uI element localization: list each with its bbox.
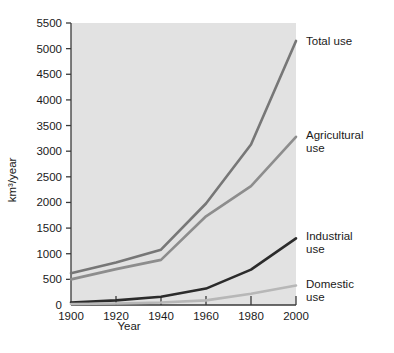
x-tick-label: 1980: [238, 310, 264, 322]
y-tick-label: 1500: [36, 222, 62, 234]
y-tick-label: 1000: [36, 248, 62, 260]
x-axis-title: Year: [117, 320, 140, 332]
chart-canvas: 0500100015002000250030003500400045005000…: [0, 0, 394, 353]
y-axis-title: km³/year: [6, 157, 18, 202]
y-axis-ticks: 0500100015002000250030003500400045005000…: [36, 17, 71, 311]
series-labels-group: Total useAgriculturaluseIndustrialuseDom…: [306, 35, 364, 303]
x-tick-label: 1940: [148, 310, 174, 322]
y-tick-label: 2000: [36, 196, 62, 208]
y-tick-label: 4500: [36, 68, 62, 80]
y-tick-label: 3500: [36, 120, 62, 132]
x-tick-label: 1900: [58, 310, 84, 322]
series-label-domestic-use: Domesticuse: [306, 278, 354, 303]
y-tick-label: 3000: [36, 145, 62, 157]
y-tick-label: 500: [43, 273, 62, 285]
x-tick-label: 1960: [193, 310, 219, 322]
chart-figure: 0500100015002000250030003500400045005000…: [0, 0, 394, 353]
y-tick-label: 4000: [36, 94, 62, 106]
y-tick-label: 2500: [36, 171, 62, 183]
series-label-total-use: Total use: [306, 35, 352, 47]
x-tick-label: 2000: [283, 310, 309, 322]
series-label-agricultural-use: Agriculturaluse: [306, 129, 364, 154]
series-label-industrial-use: Industrialuse: [306, 230, 353, 255]
y-tick-label: 5000: [36, 43, 62, 55]
y-tick-label: 5500: [36, 17, 62, 29]
